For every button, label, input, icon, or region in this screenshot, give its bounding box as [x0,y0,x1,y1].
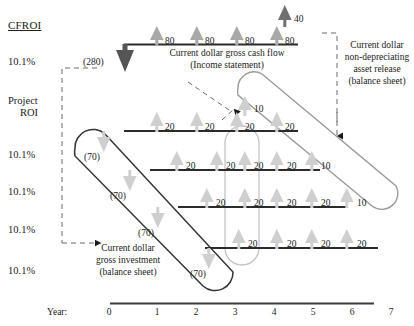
value-row2-investment: (70) [110,191,126,202]
value-row3-y3: 20 [216,198,226,209]
year-tick-7: 7 [385,307,397,318]
callout-release-line3: asset release [340,64,414,75]
year-tick-2: 2 [190,307,202,318]
value-investment-280: (280) [83,57,104,68]
investment-arrow-row1 [97,131,111,152]
year-tick-0: 0 [103,307,115,318]
release-chain-outline [238,72,398,209]
value-row4-y5: 20 [287,239,297,250]
value-row0-release: 40 [294,14,304,25]
callout-release-line2: non-depreciating [340,52,414,63]
roi-rate-0: 10.1% [8,56,35,68]
callout-cashflow-line1: Current dollar gross cash flow [139,48,315,59]
value-row2-y3: 20 [226,161,236,172]
roi-rate-2: 10.1% [8,186,35,198]
value-row2-release: 10 [321,161,331,172]
year-tick-4: 4 [268,307,280,318]
value-row4-investment: (70) [190,269,206,280]
value-row2-y5: 20 [287,161,297,172]
year-tick-3: 3 [229,307,241,318]
value-row0-y3: 80 [245,36,255,47]
roi-rate-3: 10.1% [8,224,35,236]
investment-arrow-280 [116,44,134,72]
callout-investment-line1: Current dollar [73,243,183,254]
callout-investment-line2: gross investment [73,255,183,266]
project-roi-label-2: ROI [20,107,38,119]
year-tick-1: 1 [151,307,163,318]
value-row1-y1: 20 [165,122,175,133]
year-axis-label: Year: [47,307,67,318]
value-row4-y7: 20 [357,239,367,250]
value-row0-y4: 80 [285,36,295,47]
value-row4-y6: 20 [321,239,331,250]
value-row3-release: 10 [357,198,367,209]
value-row4-y4: 20 [248,239,258,250]
roi-rate-1: 10.1% [8,149,35,161]
value-row2-y2: 20 [186,161,196,172]
cashflow-leader [188,82,234,120]
value-row1-investment: (70) [84,152,100,163]
callout-investment-line3: (balance sheet) [73,267,183,278]
value-row3-y5: 20 [287,198,297,209]
value-row3-y6: 20 [321,198,331,209]
value-row1-y3: 20 [245,122,255,133]
diagram-canvas: CFROI 10.1% Project ROI 10.1% 10.1% 10.1… [0,0,414,326]
roi-rate-4: 10.1% [8,265,35,277]
value-row1-y4: 20 [285,122,295,133]
value-row1-y2: 20 [205,122,215,133]
value-row0-y2: 80 [205,36,215,47]
release-bracket [322,33,337,136]
value-row3-y4: 20 [254,198,264,209]
year-tick-5: 5 [307,307,319,318]
value-row0-y1: 80 [165,36,175,47]
investment-arrow-row2 [123,170,137,191]
year-tick-6: 6 [346,307,358,318]
value-row2-y4: 20 [254,161,264,172]
project-roi-label-1: Project [8,95,38,107]
callout-cashflow-line2: (Income statement) [139,60,315,71]
callout-release-line1: Current dollar [340,40,414,51]
value-row1-release: 10 [254,104,264,115]
release-arrow-40 [278,5,292,27]
investment-arrow-row3 [151,207,165,228]
callout-release-line4: (balance sheet) [340,76,414,87]
value-row3-investment: (70) [138,228,154,239]
cfroi-header: CFROI [8,19,41,31]
